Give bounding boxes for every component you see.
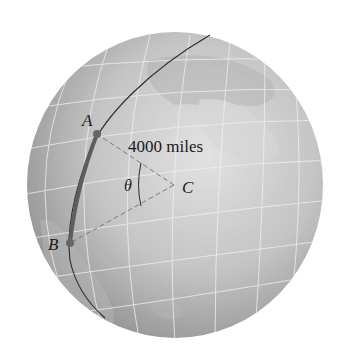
label-b: B — [48, 235, 59, 254]
label-radius-distance: 4000 miles — [128, 137, 203, 156]
label-c: C — [182, 178, 194, 197]
globe-diagram: A B C θ 4000 miles — [0, 0, 339, 353]
point-b — [66, 239, 74, 247]
label-theta: θ — [124, 177, 132, 194]
point-a — [93, 130, 101, 138]
label-a: A — [81, 111, 93, 130]
